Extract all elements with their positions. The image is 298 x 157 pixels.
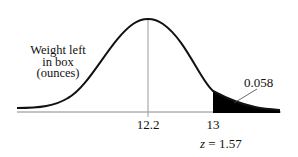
area-pointer-line xyxy=(234,89,257,103)
variable-label-line3: (ounces) xyxy=(22,68,94,80)
variable-label: Weight left in box (ounces) xyxy=(22,45,94,80)
z-score-label: z = 1.57 xyxy=(200,137,242,150)
z-score-value: = 1.57 xyxy=(205,136,242,151)
mean-tick-label: 12.2 xyxy=(133,118,163,131)
x-value-tick-label: 13 xyxy=(203,118,223,131)
shaded-area-label: 0.058 xyxy=(244,76,273,89)
